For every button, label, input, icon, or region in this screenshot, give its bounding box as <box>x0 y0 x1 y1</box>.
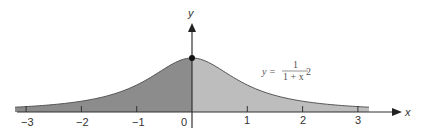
x-axis-arrow-icon <box>392 108 402 116</box>
tick-label: −1 <box>132 116 145 128</box>
tick-label: 0 <box>181 116 187 128</box>
y-axis-label: y <box>187 7 195 19</box>
chart: x y −3 −2 −1 0 1 2 3 y = 1 1 + x 2 <box>0 0 423 136</box>
formula-annotation: y = 1 1 + x 2 <box>261 59 311 82</box>
tick-label: −2 <box>76 116 89 128</box>
formula-denominator: 1 + x <box>283 71 304 82</box>
tick-label: −3 <box>21 116 34 128</box>
peak-point <box>189 55 195 61</box>
x-axis-label: x <box>404 106 411 118</box>
left-shaded-area <box>15 58 192 112</box>
formula-lhs: y = <box>261 66 276 77</box>
formula-numerator: 1 <box>293 59 298 70</box>
right-shaded-area <box>192 58 369 112</box>
tick-label: 3 <box>355 114 361 126</box>
tick-labels: −3 −2 −1 0 1 2 3 <box>21 114 361 128</box>
y-axis-arrow-icon <box>188 23 196 32</box>
tick-label: 1 <box>244 114 250 126</box>
tick-label: 2 <box>300 114 306 126</box>
formula-exponent: 2 <box>306 66 311 77</box>
